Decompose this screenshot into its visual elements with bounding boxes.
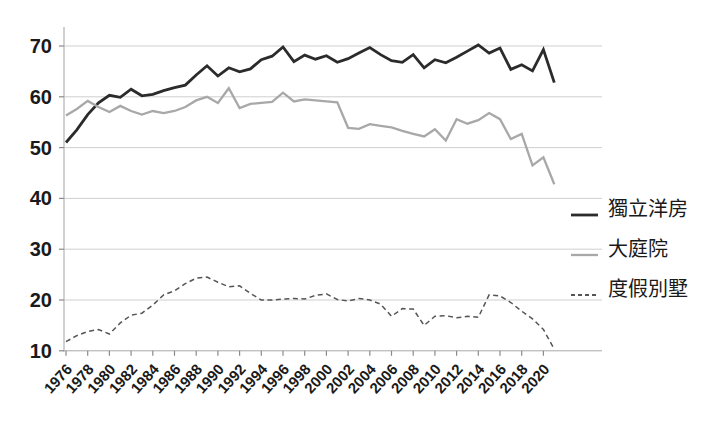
y-tick-label: 60 bbox=[30, 86, 52, 108]
y-tick-label: 50 bbox=[30, 137, 52, 159]
series-line-0 bbox=[66, 45, 554, 143]
series-line-1 bbox=[66, 88, 554, 184]
legend-label-courtyard: 大庭院 bbox=[608, 239, 668, 259]
line-chart-figure: 1020304050607019761978198019821984198619… bbox=[0, 0, 711, 427]
legend-line-swatch-solid-gray bbox=[571, 245, 598, 253]
y-tick-label: 10 bbox=[30, 340, 52, 362]
y-tick-label: 20 bbox=[30, 289, 52, 311]
y-axis-ticks: 10203040506070 bbox=[30, 35, 64, 362]
series-line-2 bbox=[66, 277, 554, 349]
legend-item-detached-house: 獨立洋房 bbox=[571, 196, 688, 222]
legend-item-vacation-villa: 度假別墅 bbox=[571, 276, 688, 302]
y-tick-label: 40 bbox=[30, 187, 52, 209]
legend-label-vacation-villa: 度假別墅 bbox=[608, 279, 688, 299]
legend-item-courtyard: 大庭院 bbox=[571, 236, 688, 262]
legend-line-swatch-dashed bbox=[571, 285, 598, 293]
gridlines bbox=[64, 46, 602, 351]
y-tick-label: 70 bbox=[30, 35, 52, 57]
y-tick-label: 30 bbox=[30, 238, 52, 260]
legend-line-swatch-solid-dark bbox=[571, 205, 598, 213]
chart-legend: 獨立洋房 大庭院 度假別墅 bbox=[571, 196, 688, 302]
legend-label-detached-house: 獨立洋房 bbox=[608, 199, 688, 219]
x-axis-ticks: 1976197819801982198419861988199019921994… bbox=[40, 351, 552, 397]
